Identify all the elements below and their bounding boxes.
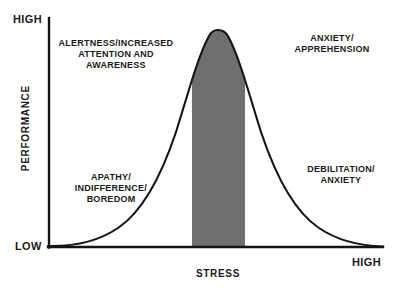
annotation-anxiety: ANXIETY/ APPREHENSION — [276, 33, 388, 55]
x-axis-high-label: HIGH — [352, 256, 381, 269]
annotation-apathy: APATHY/ INDIFFERENCE/ BOREDOM — [55, 172, 167, 205]
y-axis-title: PERFORMANCE — [20, 80, 32, 176]
x-axis-title: STRESS — [168, 268, 268, 280]
annotation-alertness: ALERTNESS/INCREASED ATTENTION AND AWAREN… — [52, 38, 180, 71]
stress-performance-chart: HIGH LOW HIGH PERFORMANCE STRESS ALERTNE… — [0, 0, 398, 292]
y-axis-high-label: HIGH — [13, 13, 42, 26]
annotation-debilitation: DEBILITATION/ ANXIETY — [288, 164, 394, 186]
y-axis-low-label: LOW — [15, 240, 42, 253]
